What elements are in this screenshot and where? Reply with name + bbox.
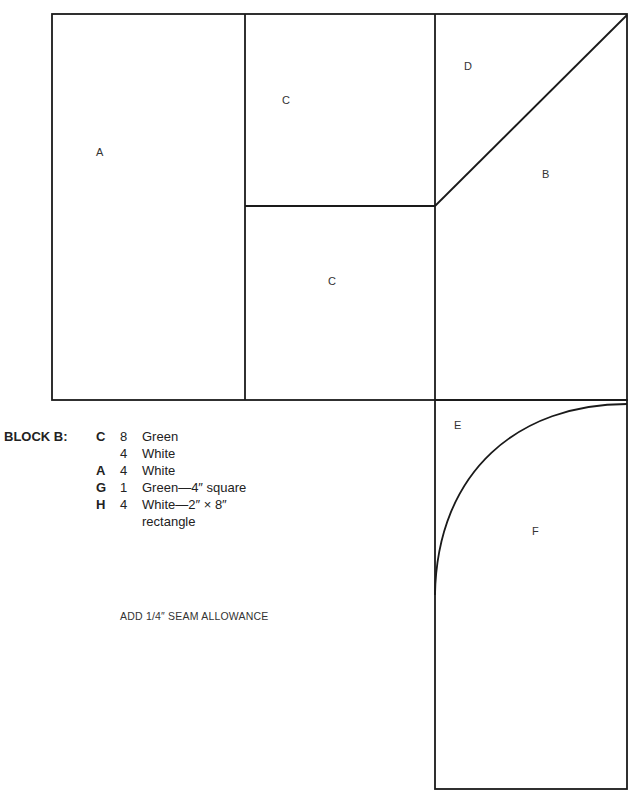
diagonal-d-b [435, 15, 627, 206]
legend-continuation: rectangle [142, 513, 195, 530]
cutting-legend: BLOCK B: C 8 Green 4 White A 4 White G 1… [4, 428, 246, 530]
legend-desc: Green—4″ square [142, 479, 246, 496]
legend-code: H [96, 496, 120, 513]
legend-code: A [96, 462, 120, 479]
piece-label-c: C [328, 275, 336, 287]
outer-frame-lower [435, 400, 627, 789]
legend-code: C [96, 428, 120, 445]
legend-desc: White—2″ × 8″ [142, 496, 227, 513]
legend-qty: 1 [120, 479, 142, 496]
piece-label-b: B [542, 168, 549, 180]
legend-qty: 8 [120, 428, 142, 445]
legend-desc: Green [142, 428, 178, 445]
seam-allowance-note: ADD 1/4″ SEAM ALLOWANCE [120, 610, 269, 622]
piece-label-f: F [532, 525, 539, 537]
curve-e-f [435, 404, 627, 595]
outer-frame-top [52, 14, 627, 400]
piece-label-d: D [464, 60, 472, 72]
legend-desc: White [142, 462, 175, 479]
legend-qty: 4 [120, 445, 142, 462]
legend-code: G [96, 479, 120, 496]
piece-label-e: E [454, 419, 461, 431]
piece-label-c: C [282, 94, 290, 106]
quilt-block-pattern [0, 0, 641, 804]
piece-label-a: A [96, 146, 103, 158]
legend-title: BLOCK B: [4, 428, 96, 445]
legend-desc: White [142, 445, 175, 462]
legend-code [96, 445, 120, 462]
legend-qty: 4 [120, 462, 142, 479]
legend-qty: 4 [120, 496, 142, 513]
